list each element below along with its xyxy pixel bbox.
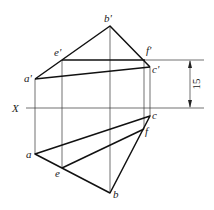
dimension-value: 15 xyxy=(190,78,202,90)
front-edge-ac xyxy=(35,67,150,79)
x-axis-label: X xyxy=(11,102,20,114)
label-e-prime: e' xyxy=(54,46,62,58)
top-edge-ef xyxy=(62,129,144,168)
label-b: b xyxy=(113,188,119,200)
label-c: c xyxy=(152,109,157,121)
label-a-prime: a' xyxy=(24,72,33,84)
dimension-arrow-bottom xyxy=(188,100,192,108)
dimension-arrow-top xyxy=(188,60,192,68)
label-e: e xyxy=(55,167,60,179)
projection-diagram: X 15 b' e' f' c' a' c f a e b xyxy=(0,0,214,210)
label-c-prime: c' xyxy=(152,63,160,75)
label-a: a xyxy=(26,148,32,160)
top-triangle xyxy=(35,116,150,193)
label-f-prime: f' xyxy=(146,44,152,56)
label-f: f xyxy=(145,125,150,137)
label-b-prime: b' xyxy=(104,12,113,24)
front-edge-ab xyxy=(35,26,150,79)
